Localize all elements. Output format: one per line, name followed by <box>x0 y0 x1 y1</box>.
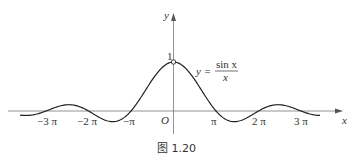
x-tick-2pi: 2 π <box>252 115 266 127</box>
x-axis-label: x <box>341 114 347 126</box>
sinc-plot: y x O 1 −3 π −2 π −π π 2 π 3 π y = sin x… <box>0 0 357 159</box>
x-tick-neg2pi: −2 π <box>77 115 97 127</box>
x-tick-negpi: −π <box>123 115 135 127</box>
x-tick-pi: π <box>211 115 217 127</box>
formula-numerator: sin x <box>216 58 238 70</box>
formula-lhs: y = <box>195 65 211 77</box>
x-tick-neg3pi: −3 π <box>37 115 57 127</box>
origin-label: O <box>161 114 169 126</box>
formula-denominator: x <box>222 71 228 83</box>
figure-caption: 图 1.20 <box>157 142 196 155</box>
y-axis-label: y <box>163 9 169 21</box>
formula-label: y = sin x x <box>195 58 238 83</box>
sinc-curve <box>20 62 320 122</box>
x-axis-arrow-icon <box>335 109 343 114</box>
y-axis-arrow-icon <box>171 13 176 21</box>
x-tick-3pi: 3 π <box>294 115 308 127</box>
y-tick-1: 1 <box>167 50 173 62</box>
